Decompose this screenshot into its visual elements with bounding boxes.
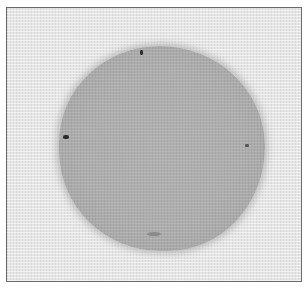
mark-top <box>140 50 143 55</box>
mark-right <box>245 144 249 147</box>
mark-left <box>63 135 69 139</box>
circular-stain <box>59 46 265 251</box>
photo-frame <box>6 7 302 282</box>
mark-bottom <box>147 232 161 236</box>
